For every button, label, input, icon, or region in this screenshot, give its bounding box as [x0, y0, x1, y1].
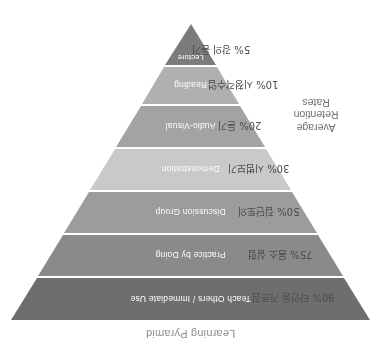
- band-label-en-3: Discussion Group: [155, 208, 225, 218]
- axis-caption-line-3: Rates: [257, 97, 375, 110]
- band-label-en-4: Demonstration: [162, 165, 220, 175]
- band-label-kr-3: 50% 집단토의: [238, 205, 368, 220]
- band-label-en-1: Teach Others / Immediate Use: [130, 294, 250, 304]
- pyramid-funnel: Teach Others / Immediate Use 90% 타인을 가르침…: [11, 24, 370, 320]
- band-label-kr-4: 30% 시범보기: [228, 162, 358, 177]
- chart-title: Learning Pyramid: [0, 328, 381, 340]
- band-label-en-7: Lecture: [11, 53, 370, 62]
- band-label-kr-6: 10% 시청각수업: [208, 78, 338, 93]
- axis-caption-line-2: Retention: [257, 109, 375, 122]
- band-label-en-2: Practice by Doing: [156, 251, 226, 261]
- axis-caption-line-1: Average: [257, 122, 375, 135]
- axis-caption: Average Retention Rates: [257, 97, 375, 135]
- band-label-en-5: Audio-Visual: [166, 122, 216, 132]
- band-label-kr-1: 90% 타인을 가르침: [252, 291, 381, 306]
- band-label-kr-2: 75% 몸소 실험: [248, 248, 378, 263]
- band-label-en-6: Reading: [174, 81, 207, 91]
- learning-pyramid-chart: Learning Pyramid Teach Others / Immediat…: [0, 0, 381, 346]
